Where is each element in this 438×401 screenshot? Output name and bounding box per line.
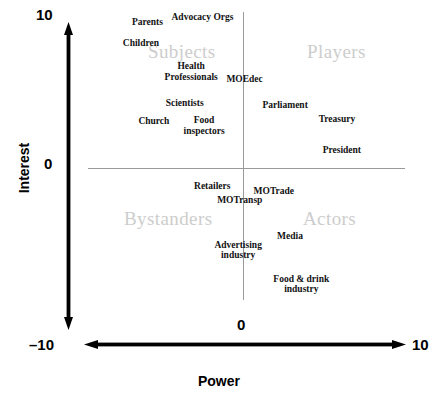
stakeholder-label: Food & drink industry	[273, 274, 329, 295]
y-axis-title: Interest	[16, 131, 32, 205]
stakeholder-label: Media	[277, 231, 303, 242]
stakeholder-power-interest-chart: 10 0 –10 0 10 Interest Power SubjectsPla…	[0, 0, 438, 401]
double-headed-vertical-arrow-icon	[64, 22, 73, 330]
stakeholder-label: Health Professionals	[165, 62, 218, 83]
stakeholder-label: Advertising industry	[214, 240, 262, 261]
stakeholder-label: Scientists	[166, 98, 204, 109]
quadrant-label-top-right: Players	[307, 41, 366, 63]
quadrant-label-bottom-left: Bystanders	[124, 208, 212, 230]
stakeholder-label: Children	[123, 38, 159, 49]
stakeholder-label: Food inspectors	[184, 115, 225, 136]
stakeholder-label: Retailers	[194, 181, 230, 192]
stakeholder-label: President	[323, 145, 361, 156]
stakeholder-label: Treasury	[319, 114, 356, 125]
x-axis-max-tick: 10	[412, 336, 429, 353]
stakeholder-label: Parents	[132, 17, 163, 28]
double-headed-horizontal-arrow-icon	[84, 340, 406, 349]
stakeholder-label: Advocacy Orgs	[171, 12, 233, 23]
y-axis-zero-tick: 0	[44, 155, 52, 172]
horizontal-gridline	[88, 168, 405, 169]
stakeholder-label: Parliament	[262, 100, 307, 111]
stakeholder-label: Church	[138, 116, 169, 127]
y-axis-max-tick: 10	[36, 6, 53, 23]
quadrant-label-bottom-right: Actors	[303, 208, 356, 230]
stakeholder-label: MOTransp	[217, 195, 262, 206]
y-axis-min-tick: –10	[29, 336, 54, 353]
x-axis-title: Power	[0, 373, 438, 389]
stakeholder-label: MOEdec	[226, 74, 262, 85]
x-axis-zero-tick: 0	[237, 316, 245, 333]
